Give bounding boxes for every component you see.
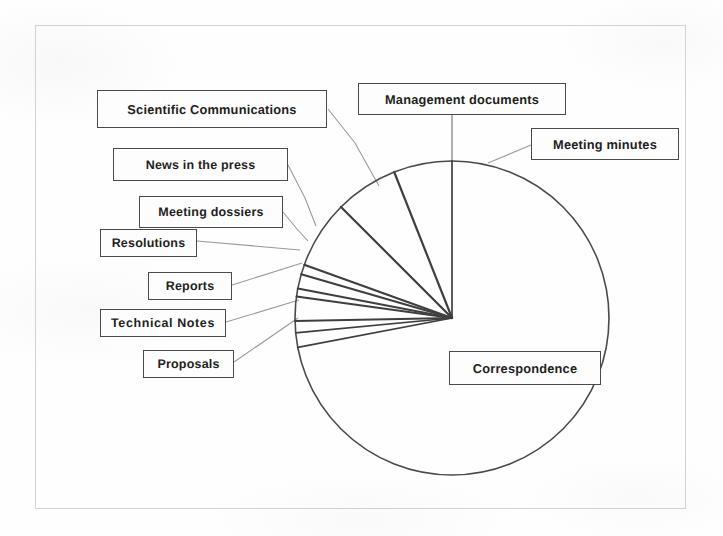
leader-scientific-communications (328, 109, 379, 186)
label-proposals[interactable]: Proposals (143, 350, 234, 378)
label-news-in-the-press[interactable]: News in the press (113, 148, 288, 181)
leader-technical-notes (226, 300, 299, 322)
leader-meeting-minutes (488, 145, 531, 163)
leader-meeting-dossiers (283, 212, 308, 241)
leader-resolutions (197, 241, 300, 250)
leader-news-in-the-press (288, 165, 316, 226)
label-meeting-dossiers[interactable]: Meeting dossiers (139, 196, 283, 228)
label-reports[interactable]: Reports (148, 272, 232, 300)
label-meeting-minutes[interactable]: Meeting minutes (531, 128, 679, 160)
scanned-figure: Scientific Communications News in the pr… (0, 0, 723, 536)
divider-proposals (394, 172, 452, 318)
divider-meeting-dossiers (298, 289, 452, 318)
label-correspondence[interactable]: Correspondence (449, 351, 601, 385)
label-management-documents[interactable]: Management documents (358, 83, 566, 115)
divider-meeting-minutes (298, 318, 452, 347)
divider-reports (304, 265, 452, 318)
leader-lines (197, 109, 531, 362)
label-scientific-communications[interactable]: Scientific Communications (97, 90, 327, 128)
label-technical-notes[interactable]: Technical Notes (100, 309, 226, 337)
leader-reports (232, 263, 302, 285)
leader-proposals (234, 318, 298, 362)
pie-chart-graphic (0, 0, 723, 536)
divider-news-in-the-press (297, 296, 453, 318)
label-resolutions[interactable]: Resolutions (100, 229, 197, 257)
pie-slice-dividers (295, 161, 452, 347)
